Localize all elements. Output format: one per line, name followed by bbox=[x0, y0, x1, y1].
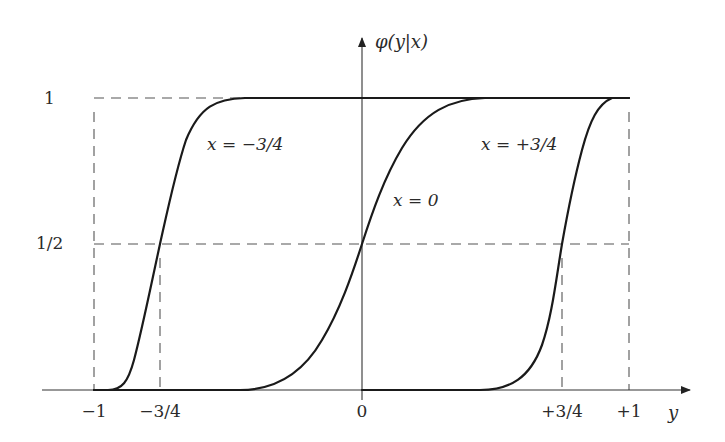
x-tick-plus-1: +1 bbox=[616, 403, 641, 420]
y-axis-title: φ(y|x) bbox=[375, 33, 428, 51]
y-tick-1: 1 bbox=[44, 90, 55, 107]
x-axis-title: y bbox=[668, 404, 678, 422]
curve-label-x-minus-3-4: x = −3/4 bbox=[207, 136, 283, 153]
curve-label-x-0: x = 0 bbox=[393, 192, 438, 209]
y-tick-half: 1/2 bbox=[36, 235, 63, 252]
x-tick-plus-3-4: +3/4 bbox=[541, 403, 583, 420]
curve-label-x-plus-3-4: x = +3/4 bbox=[481, 136, 557, 153]
x-tick-minus-1: −1 bbox=[81, 403, 106, 420]
chart-canvas bbox=[0, 0, 725, 442]
x-tick-minus-3-4: −3/4 bbox=[139, 403, 181, 420]
x-tick-0: 0 bbox=[357, 403, 368, 420]
